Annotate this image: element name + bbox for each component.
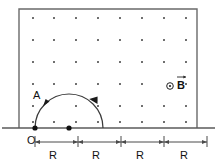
center-point [66,125,71,130]
dimension-label-3: R [136,149,144,161]
point-a-label: A [33,89,41,101]
physics-diagram: B A O [0,0,217,164]
field-label-text: B [177,79,185,91]
dimension-labels: R R R R [49,149,188,161]
dimension-label-1: R [49,149,57,161]
dimension-label-4: R [180,149,188,161]
magnetic-field-label: B [177,76,186,91]
field-region-border [19,9,197,128]
semicircular-path [35,94,103,128]
origin-point [32,125,37,130]
dimension-label-2: R [92,149,100,161]
distance-markings [35,136,207,147]
path-arrowhead-right [89,96,97,104]
diagram-canvas: B A O [0,0,217,164]
field-dot-grid [32,17,187,123]
field-out-of-page-symbol [167,83,174,90]
path-arrowhead-left [43,99,50,107]
